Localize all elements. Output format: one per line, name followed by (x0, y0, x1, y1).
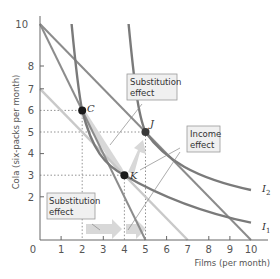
origin-label: 0 (30, 244, 36, 255)
k-to-j-arrow (128, 140, 146, 174)
x-tick-3: 3 (100, 244, 106, 255)
x-tick-8: 8 (206, 244, 212, 255)
x-tick-9: 9 (227, 244, 233, 255)
svg-text:effect: effect (49, 207, 74, 217)
x-tick-7: 7 (185, 244, 191, 255)
x-tick-10: 10 (245, 244, 258, 255)
point-j-label: J (148, 118, 155, 129)
substitution-effect-bottom-box: Substitution effect (47, 193, 100, 219)
point-c-label: C (87, 103, 95, 114)
x-tick-6: 6 (163, 244, 169, 255)
x-tick-5: 5 (142, 244, 148, 255)
y-ticks (40, 66, 44, 197)
i2-label: I2 (261, 183, 270, 197)
point-c-marker (78, 106, 86, 114)
indifference-curve-i1 (72, 24, 251, 223)
svg-text:effect: effect (190, 140, 215, 150)
svg-text:Income: Income (190, 129, 221, 139)
indifference-curve-i2 (129, 24, 251, 190)
x-tick-4: 4 (121, 244, 127, 255)
y-tick-2: 2 (28, 192, 34, 203)
income-effect-box: Income effect (187, 126, 221, 152)
y-axis-title: Cola (six-packs per month) (11, 75, 21, 190)
y-tick-4: 4 (28, 148, 34, 159)
substitution-effect-top-box: Substitution effect (127, 74, 181, 100)
svg-text:Substitution: Substitution (49, 196, 100, 206)
svg-text:effect: effect (130, 88, 155, 98)
y-tick-5: 5 (28, 127, 34, 138)
point-k-label: K (129, 170, 138, 181)
x-tick-1: 1 (58, 244, 64, 255)
y-tick-6: 6 (28, 105, 34, 116)
svg-text:Substitution: Substitution (130, 77, 181, 87)
y-tick-7: 7 (28, 84, 34, 95)
y-tick-10: 10 (15, 19, 28, 30)
y-tick-3: 3 (28, 170, 34, 181)
chart: 10 8 7 6 5 4 3 2 0 1 2 3 4 5 6 7 8 9 10 … (0, 0, 280, 279)
y-tick-8: 8 (28, 61, 34, 72)
x-axis-title: Films (per month) (195, 258, 270, 268)
x-tick-2: 2 (79, 244, 85, 255)
point-j-marker (142, 128, 150, 136)
point-k-marker (120, 171, 128, 179)
x-subst-arrow (86, 219, 122, 239)
i1-label: I1 (261, 221, 270, 235)
